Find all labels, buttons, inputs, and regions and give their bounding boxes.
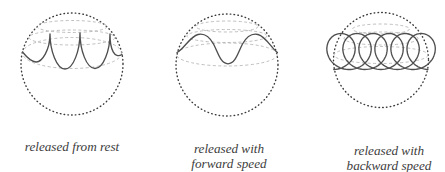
caption-text: released with [191, 141, 266, 156]
trajectory-loops-path [327, 34, 436, 70]
latitude-line [334, 47, 428, 64]
latitude-line [37, 21, 107, 33]
sphere-outline [176, 14, 278, 116]
panel-released-with-backward-speed [327, 13, 436, 108]
latitude-line [177, 43, 278, 66]
caption-text: released with [347, 143, 432, 158]
sphere-outline [334, 13, 429, 108]
latitude-line [187, 30, 267, 43]
caption-text: released from rest [25, 139, 120, 154]
latitude-line [353, 24, 410, 34]
caption-released-from-rest: released from rest [25, 139, 120, 154]
panel-released-from-rest [21, 13, 123, 115]
caption-text: backward speed [347, 158, 432, 172]
figure-page: released from rest released with forward… [0, 0, 445, 172]
caption-text: forward speed [191, 156, 266, 171]
diagram-svg [0, 0, 445, 132]
panel-released-with-forward-speed [176, 14, 278, 116]
caption-released-with-backward-speed: released with backward speed [347, 143, 432, 172]
caption-released-with-forward-speed: released with forward speed [191, 141, 266, 172]
